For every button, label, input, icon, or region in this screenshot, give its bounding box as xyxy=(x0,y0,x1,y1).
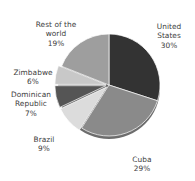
slice-label-rest-of-the-world-percent: 19% xyxy=(22,39,90,48)
slice-label-rest-of-the-world-name: Rest of the world xyxy=(36,20,77,38)
slice-label-cuba-percent: 29% xyxy=(118,164,166,173)
slice-label-dominican-republic-name: Dominican Republic xyxy=(11,90,51,108)
slice-label-cuba: Cuba 29% xyxy=(118,146,166,181)
slice-label-brazil-name: Brazil xyxy=(34,135,55,144)
slice-label-united-states-name: United States xyxy=(157,22,182,40)
slice-label-brazil: Brazil 9% xyxy=(22,126,66,163)
slice-label-brazil-percent: 9% xyxy=(22,144,66,153)
slice-label-united-states-percent: 30% xyxy=(147,41,191,50)
slice-label-dominican-republic-percent: 7% xyxy=(2,109,60,118)
pie-chart: Rest of the world 19% United States 30% … xyxy=(0,0,195,181)
slice-label-cuba-name: Cuba xyxy=(132,155,151,164)
slice-label-rest-of-the-world: Rest of the world 19% xyxy=(22,11,90,57)
slice-label-zimbabwe-name: Zimbabwe xyxy=(13,68,52,77)
slice-label-united-states: United States 30% xyxy=(147,13,191,59)
slice-label-dominican-republic: Dominican Republic 7% xyxy=(2,81,60,127)
